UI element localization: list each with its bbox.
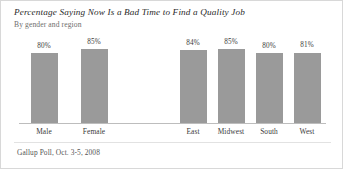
footer-divider <box>14 142 331 143</box>
bar-slot: 80% <box>19 37 69 123</box>
bar-slot: 85% <box>212 37 250 123</box>
category-label: West <box>288 127 326 139</box>
bar-value-label: 81% <box>300 42 313 49</box>
bar <box>218 49 245 123</box>
category-label: Midwest <box>212 127 250 139</box>
bar-slot: 80% <box>250 37 288 123</box>
chart-subtitle: By gender and region <box>14 20 82 29</box>
bar <box>294 53 321 124</box>
bar-value-label: 85% <box>87 39 100 46</box>
bar-value-label: 80% <box>262 43 275 50</box>
category-label: South <box>250 127 288 139</box>
bar <box>256 53 283 123</box>
bar <box>81 49 108 123</box>
category-label: Female <box>69 127 119 139</box>
bar <box>180 50 207 123</box>
bar-slot: 81% <box>288 37 326 123</box>
category-label: East <box>174 127 212 139</box>
x-axis-line <box>19 123 326 124</box>
bar <box>31 53 58 123</box>
bar-group-gender: 80% 85% <box>19 37 119 123</box>
bar-value-label: 80% <box>37 43 50 50</box>
bar-slot: 85% <box>69 37 119 123</box>
category-labels-region: East Midwest South West <box>174 127 326 139</box>
bar-group-region: 84% 85% 80% 81% <box>174 37 326 123</box>
plot-area: 80% 85% 84% 85% 80% 81% <box>19 37 326 123</box>
bar-value-label: 84% <box>186 40 199 47</box>
chart-figure: Percentage Saying Now Is a Bad Time to F… <box>0 0 343 169</box>
category-label: Male <box>19 127 69 139</box>
chart-title: Percentage Saying Now Is a Bad Time to F… <box>14 7 245 17</box>
bar-slot: 84% <box>174 37 212 123</box>
source-note: Gallup Poll, Oct. 3-5, 2008 <box>17 148 100 157</box>
bar-value-label: 85% <box>224 39 237 46</box>
category-labels-gender: Male Female <box>19 127 119 139</box>
